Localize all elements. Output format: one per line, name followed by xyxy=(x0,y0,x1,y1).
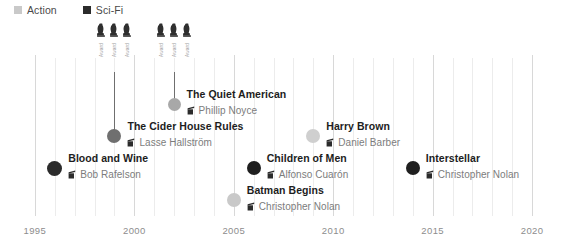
gridline-minor xyxy=(413,58,414,216)
film-title: Harry Brown xyxy=(326,120,400,132)
chart-legend: Action Sci-Fi xyxy=(14,3,123,17)
film-dot[interactable] xyxy=(247,161,261,175)
award-item[interactable]: Award xyxy=(183,23,192,57)
film-title: Interstellar xyxy=(426,152,519,164)
clapperboard-icon xyxy=(247,197,255,216)
film-dot[interactable] xyxy=(406,161,420,175)
clapperboard-icon xyxy=(187,101,195,120)
axis-tick-label: 1995 xyxy=(24,225,47,236)
film-director-row: Bob Rafelson xyxy=(68,165,148,184)
film-label-group: Batman BeginsChristopher Nolan xyxy=(247,184,340,216)
gridline-minor xyxy=(75,58,76,216)
film-title: The Quiet American xyxy=(187,88,287,100)
film-director: Bob Rafelson xyxy=(80,169,141,181)
clapperboard-icon xyxy=(127,133,135,152)
award-label: Award xyxy=(183,43,192,57)
film-director-row: Christopher Nolan xyxy=(247,197,340,216)
film-title: The Cider House Rules xyxy=(127,120,243,132)
award-label: Award xyxy=(123,43,132,57)
legend-item-action[interactable]: Action xyxy=(14,4,57,16)
award-item[interactable]: Award xyxy=(170,23,179,57)
legend-label: Action xyxy=(27,4,57,16)
gridline-major xyxy=(532,55,533,216)
award-trophy-icon xyxy=(183,23,192,41)
film-director: Daniel Barber xyxy=(338,137,400,149)
square-swatch-icon xyxy=(83,6,91,14)
gridline-minor xyxy=(453,58,454,216)
gridline-minor xyxy=(55,58,56,216)
film-director-row: Phillip Noyce xyxy=(187,101,287,120)
gridline-minor xyxy=(512,58,513,216)
legend-label: Sci-Fi xyxy=(96,4,123,16)
film-marker[interactable]: Harry BrownDaniel Barber xyxy=(306,122,400,150)
film-marker[interactable]: InterstellarChristopher Nolan xyxy=(406,154,519,182)
film-director-row: Alfonso Cuarón xyxy=(267,165,349,184)
award-label: Award xyxy=(97,43,106,57)
award-trophy-icon xyxy=(157,23,166,41)
award-trophy-icon xyxy=(123,23,132,41)
award-label: Award xyxy=(170,43,179,57)
legend-item-sci-fi[interactable]: Sci-Fi xyxy=(83,4,123,16)
axis-tick-label: 2015 xyxy=(421,225,444,236)
film-label-group: Children of MenAlfonso Cuarón xyxy=(267,152,349,184)
film-dot[interactable] xyxy=(306,129,320,143)
film-label-group: The Quiet AmericanPhillip Noyce xyxy=(187,88,287,120)
film-director: Phillip Noyce xyxy=(199,105,257,117)
film-dot[interactable] xyxy=(107,129,121,143)
film-title: Children of Men xyxy=(267,152,349,164)
award-trophy-icon xyxy=(170,23,179,41)
film-label-group: InterstellarChristopher Nolan xyxy=(426,152,519,184)
clapperboard-icon xyxy=(68,165,76,184)
award-trophy-icon xyxy=(110,23,119,41)
film-director: Lasse Hallström xyxy=(139,137,211,149)
film-director-row: Christopher Nolan xyxy=(426,165,519,184)
axis-tick-label: 2010 xyxy=(322,225,345,236)
film-marker[interactable]: Children of MenAlfonso Cuarón xyxy=(247,154,349,182)
film-title: Blood and Wine xyxy=(68,152,148,164)
award-item[interactable]: Award xyxy=(110,23,119,57)
gridline-major xyxy=(433,55,434,216)
film-label-group: Blood and WineBob Rafelson xyxy=(68,152,148,184)
award-label: Award xyxy=(157,43,166,57)
film-label-group: Harry BrownDaniel Barber xyxy=(326,120,400,152)
film-marker[interactable]: Blood and WineBob Rafelson xyxy=(47,154,148,182)
film-dot[interactable] xyxy=(47,161,62,176)
axis-tick-label: 2000 xyxy=(123,225,146,236)
award-label: Award xyxy=(110,43,119,57)
gridline-minor xyxy=(95,58,96,216)
film-director-row: Daniel Barber xyxy=(326,133,400,152)
film-label-group: The Cider House RulesLasse Hallström xyxy=(127,120,243,152)
axis-tick-label: 2005 xyxy=(222,225,245,236)
film-director: Christopher Nolan xyxy=(438,169,519,181)
film-director: Christopher Nolan xyxy=(259,201,340,213)
gridline-major xyxy=(35,55,36,216)
award-item[interactable]: Award xyxy=(157,23,166,57)
film-timeline-chart: Action Sci-Fi 199520002005201020152020 A… xyxy=(0,0,567,251)
award-trophy-icon xyxy=(97,23,106,41)
film-marker[interactable]: Batman BeginsChristopher Nolan xyxy=(227,186,340,214)
film-dot[interactable] xyxy=(227,193,241,207)
film-title: Batman Begins xyxy=(247,184,340,196)
award-item[interactable]: Award xyxy=(123,23,132,57)
axis-tick-label: 2020 xyxy=(521,225,544,236)
film-marker[interactable]: The Cider House RulesLasse Hallström xyxy=(107,122,243,150)
film-dot[interactable] xyxy=(168,98,181,111)
film-director-row: Lasse Hallström xyxy=(127,133,243,152)
award-cluster[interactable]: AwardAwardAward xyxy=(97,23,132,57)
clapperboard-icon xyxy=(326,133,334,152)
clapperboard-icon xyxy=(426,165,434,184)
award-cluster[interactable]: AwardAwardAward xyxy=(157,23,192,57)
gridline-minor xyxy=(472,58,473,216)
gridline-minor xyxy=(492,58,493,216)
award-item[interactable]: Award xyxy=(97,23,106,57)
clapperboard-icon xyxy=(267,165,275,184)
film-director: Alfonso Cuarón xyxy=(279,169,349,181)
square-swatch-icon xyxy=(14,6,22,14)
film-marker[interactable]: The Quiet AmericanPhillip Noyce xyxy=(168,90,287,118)
